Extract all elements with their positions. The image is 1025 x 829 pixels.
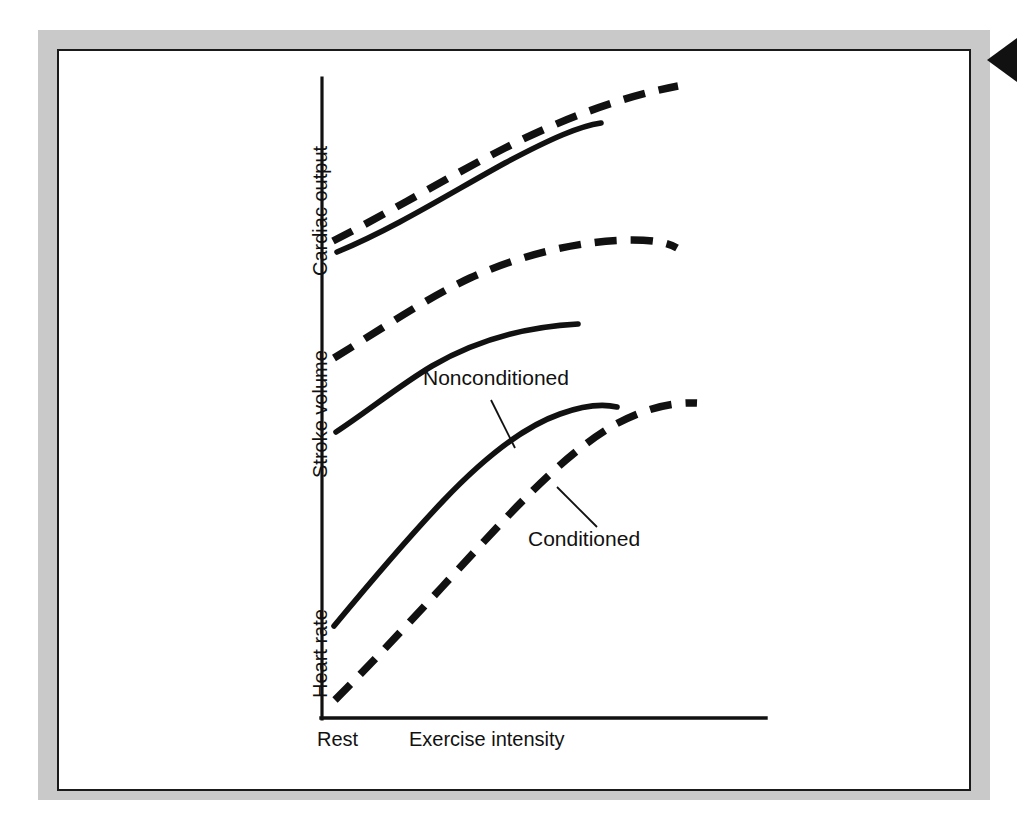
- x-axis-tick-rest: Rest: [317, 728, 358, 751]
- callout-conditioned: Conditioned: [528, 527, 640, 551]
- heart-rate-conditioned-dashed-curve: [335, 403, 697, 700]
- figure-page: Cardiac output Stroke volume Heart rate …: [0, 0, 1025, 829]
- heart-rate-nonconditioned-solid-curve: [334, 405, 617, 626]
- y-axis-label-stroke-volume: Stroke volume: [309, 350, 332, 478]
- exercise-response-chart: [0, 0, 1025, 829]
- conditioned-leader-line: [557, 487, 597, 527]
- nonconditioned-leader-line: [491, 400, 515, 448]
- stroke-volume-conditioned-dashed-curve: [334, 240, 677, 358]
- cardiac-output-curves: [333, 86, 678, 252]
- cardiac-output-nonconditioned-solid-curve: [337, 123, 601, 252]
- stroke-volume-curves: [334, 240, 677, 432]
- y-axis-label-cardiac-output: Cardiac output: [309, 146, 332, 276]
- x-axis-label-exercise-intensity: Exercise intensity: [409, 728, 565, 751]
- callout-nonconditioned: Nonconditioned: [423, 366, 569, 390]
- y-axis-label-heart-rate: Heart rate: [309, 609, 332, 698]
